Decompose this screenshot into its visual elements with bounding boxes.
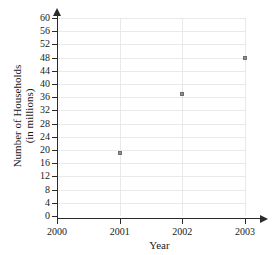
- x-axis-tick-label: 2003: [223, 226, 267, 237]
- x-axis-arrow-icon: [260, 215, 268, 223]
- gridline-horizontal: [57, 18, 245, 19]
- data-point: [243, 56, 247, 60]
- x-axis-title: Year: [57, 239, 262, 251]
- x-axis-tick: [120, 219, 121, 224]
- gridline-horizontal: [57, 84, 245, 85]
- y-axis-tick: [52, 31, 57, 32]
- y-axis-tick: [52, 110, 57, 111]
- x-axis-tick-label: 2002: [160, 226, 204, 237]
- x-axis-tick-label: 2001: [98, 226, 142, 237]
- y-axis-tick: [52, 190, 57, 191]
- gridline-vertical: [245, 18, 246, 216]
- plot-area: [57, 18, 273, 219]
- x-axis-tick: [57, 219, 58, 224]
- scatter-chart: 04812162024283236404448525660 2000200120…: [0, 0, 273, 255]
- y-axis-tick: [52, 44, 57, 45]
- x-axis-tick-label: 2000: [35, 226, 79, 237]
- gridline-horizontal: [57, 71, 245, 72]
- gridline-horizontal: [57, 176, 245, 177]
- gridline-horizontal: [57, 124, 245, 125]
- gridline-horizontal: [57, 163, 245, 164]
- gridline-horizontal: [57, 137, 245, 138]
- gridline-horizontal: [57, 190, 245, 191]
- gridline-horizontal: [57, 97, 245, 98]
- y-axis-tick: [52, 137, 57, 138]
- y-axis-tick: [52, 203, 57, 204]
- y-axis-arrow-icon: [53, 8, 61, 16]
- y-axis-tick: [52, 124, 57, 125]
- y-axis-tick: [52, 150, 57, 151]
- gridline-horizontal: [57, 44, 245, 45]
- y-axis-title-line1: Number of Households: [11, 65, 23, 168]
- gridline-horizontal: [57, 58, 245, 59]
- y-axis-tick: [52, 176, 57, 177]
- y-axis-tick: [52, 71, 57, 72]
- data-point: [180, 92, 184, 96]
- y-axis-tick: [52, 18, 57, 19]
- y-axis-tick-label: 60: [2, 13, 50, 23]
- y-axis-line: [57, 12, 58, 219]
- gridline-vertical: [120, 18, 121, 216]
- y-axis-title: Number of Households (in millions): [11, 31, 35, 201]
- gridline-horizontal: [57, 150, 245, 151]
- gridline-horizontal: [57, 203, 245, 204]
- gridline-vertical: [182, 18, 183, 216]
- gridline-horizontal: [57, 31, 245, 32]
- y-axis-tick: [52, 216, 57, 217]
- y-axis-tick: [52, 97, 57, 98]
- x-axis-tick: [182, 219, 183, 224]
- x-axis-line: [57, 218, 262, 219]
- y-axis-tick-label: 0: [2, 211, 50, 221]
- gridline-horizontal: [57, 110, 245, 111]
- y-axis-tick: [52, 163, 57, 164]
- x-axis-tick: [245, 219, 246, 224]
- y-axis-tick: [52, 84, 57, 85]
- y-axis-title-line2: (in millions): [23, 31, 35, 201]
- y-axis-tick: [52, 58, 57, 59]
- data-point: [118, 151, 122, 155]
